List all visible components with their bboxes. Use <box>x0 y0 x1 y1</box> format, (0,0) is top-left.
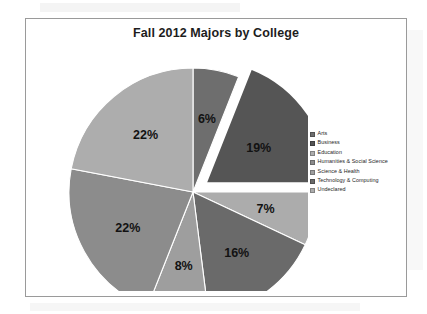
legend-swatch-icon <box>310 160 315 165</box>
legend-item-label: Humanities & Social Science <box>318 159 388 164</box>
legend-item-label: Business <box>318 140 340 145</box>
pie-slice-value-label: 8% <box>175 259 193 273</box>
pie-slice-group <box>69 68 308 291</box>
legend-item[interactable]: Undeclared <box>310 187 406 193</box>
legend-item[interactable]: Education <box>310 150 406 156</box>
legend-item[interactable]: Humanities & Social Science <box>310 159 406 165</box>
legend-swatch-icon <box>310 179 315 184</box>
pie-slice-value-label: 16% <box>224 246 249 260</box>
pie-slice-value-label: 7% <box>257 202 275 216</box>
pie-slice-value-label: 6% <box>198 112 216 126</box>
pie-chart-plot-area: 6%19%7%16%8%22%22% <box>38 43 308 291</box>
legend-swatch-icon <box>310 188 315 193</box>
legend-item[interactable]: Technology & Computing <box>310 178 406 184</box>
chart-frame: Fall 2012 Majors by College 6%19%7%16%8%… <box>25 18 407 297</box>
legend-swatch-icon <box>310 170 315 175</box>
pie-slice-value-label: 22% <box>115 221 140 235</box>
legend-item-label: Arts <box>318 131 328 136</box>
legend-item[interactable]: Business <box>310 140 406 146</box>
legend-swatch-icon <box>310 141 315 146</box>
legend-item[interactable]: Science & Health <box>310 169 406 175</box>
pie-slice-value-label: 22% <box>133 128 158 142</box>
pie-chart-svg: 6%19%7%16%8%22%22% <box>38 43 308 291</box>
scanned-page: Fall 2012 Majors by College 6%19%7%16%8%… <box>0 0 427 314</box>
legend-item-label: Technology & Computing <box>318 178 379 183</box>
legend-item-label: Education <box>318 150 342 155</box>
chart-legend: ArtsBusinessEducationHumanities & Social… <box>310 131 406 197</box>
pie-slice-value-label: 19% <box>246 141 271 155</box>
scan-artifact-bottom <box>30 303 360 311</box>
legend-swatch-icon <box>310 132 315 137</box>
legend-item-label: Undeclared <box>318 187 346 192</box>
scan-artifact-top <box>40 3 240 12</box>
chart-title: Fall 2012 Majors by College <box>26 26 406 40</box>
legend-item[interactable]: Arts <box>310 131 406 137</box>
legend-item-label: Science & Health <box>318 169 360 174</box>
legend-swatch-icon <box>310 151 315 156</box>
